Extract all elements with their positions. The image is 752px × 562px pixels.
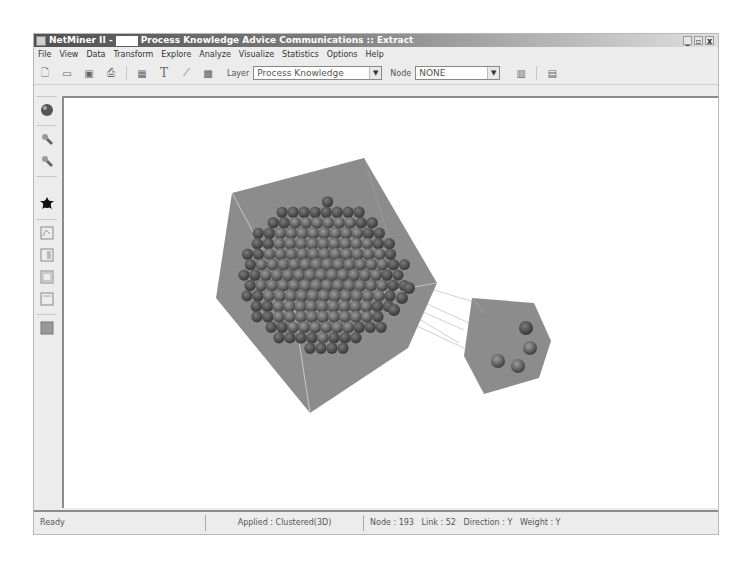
- left-toolbar: [34, 86, 61, 514]
- menu-analyze[interactable]: Analyze: [195, 50, 235, 59]
- small-cluster-cube: [464, 298, 551, 394]
- layer-value: Process Knowledge: [254, 68, 369, 78]
- layer-label: Layer: [227, 69, 249, 78]
- link-icon[interactable]: ⟋: [179, 66, 193, 80]
- spacer: [34, 177, 61, 191]
- grid-icon[interactable]: ▦: [135, 66, 149, 80]
- open-folder-icon[interactable]: ▭: [60, 66, 74, 80]
- minimize-button[interactable]: _: [683, 36, 692, 45]
- panel-icon[interactable]: ▤: [545, 66, 559, 80]
- node-label: Node: [390, 69, 411, 78]
- toolbar-separator: [37, 219, 57, 220]
- toolbar-separator: [37, 314, 57, 315]
- menu-statistics[interactable]: Statistics: [278, 50, 323, 59]
- node-star-icon[interactable]: [38, 195, 56, 213]
- status-text: Ready: [34, 515, 206, 531]
- frame-1-icon[interactable]: [38, 224, 56, 242]
- main-toolbar: 🗋 ▭ ▣ ⎙ ▦ T ⟋ ▩ Layer Process Knowledge …: [34, 62, 718, 85]
- cluster-visualization: [64, 98, 720, 508]
- print-icon[interactable]: ⎙: [104, 66, 118, 80]
- applied-layout: Applied : Clustered(3D): [206, 515, 364, 531]
- menu-file[interactable]: File: [34, 50, 55, 59]
- frame-2-icon[interactable]: [38, 246, 56, 264]
- save-icon[interactable]: ▣: [82, 66, 96, 80]
- toolbar-separator: [37, 125, 57, 126]
- chevron-down-icon[interactable]: ▼: [369, 67, 381, 79]
- columns-icon[interactable]: ▥: [514, 66, 528, 80]
- toolbar-separator: [37, 96, 57, 97]
- image-icon[interactable]: ▩: [201, 66, 215, 80]
- status-bar: Ready Applied : Clustered(3D) Node : 193…: [34, 510, 718, 534]
- new-file-icon[interactable]: 🗋: [38, 66, 52, 80]
- fill-icon[interactable]: [38, 319, 56, 337]
- window-controls: _ ▫ x: [683, 34, 714, 47]
- layer-dropdown[interactable]: Process Knowledge ▼: [253, 66, 382, 80]
- chevron-down-icon[interactable]: ▼: [487, 67, 499, 79]
- menu-data[interactable]: Data: [82, 50, 109, 59]
- toolbar-separator: [126, 66, 127, 80]
- title-prefix: NetMiner II -: [49, 34, 113, 47]
- node-dropdown[interactable]: NONE ▼: [415, 66, 500, 80]
- menu-explore[interactable]: Explore: [157, 50, 195, 59]
- frame-4-icon[interactable]: [38, 290, 56, 308]
- toolbar-separator: [536, 66, 537, 80]
- frame-3-icon[interactable]: [38, 268, 56, 286]
- app-icon: [36, 36, 46, 46]
- network-stats: Node : 193 Link : 52 Direction : Y Weigh…: [364, 515, 567, 531]
- restore-button[interactable]: ▫: [694, 36, 703, 45]
- text-icon[interactable]: T: [157, 66, 171, 80]
- node-value: NONE: [416, 68, 487, 78]
- redacted-title-block: [116, 36, 138, 46]
- menu-view[interactable]: View: [55, 50, 82, 59]
- menu-bar: File View Data Transform Explore Analyze…: [34, 47, 718, 61]
- menu-visualize[interactable]: Visualize: [235, 50, 278, 59]
- window-title: Process Knowledge Advice Communications …: [141, 34, 414, 47]
- zoom-out-icon[interactable]: [38, 152, 56, 170]
- menu-options[interactable]: Options: [323, 50, 362, 59]
- zoom-in-icon[interactable]: [38, 130, 56, 148]
- menu-help[interactable]: Help: [362, 50, 388, 59]
- close-button[interactable]: x: [705, 36, 714, 45]
- menu-transform[interactable]: Transform: [109, 50, 157, 59]
- network-3d-canvas[interactable]: [62, 96, 718, 508]
- title-bar: NetMiner II - Process Knowledge Advice C…: [34, 34, 718, 47]
- sphere-icon[interactable]: [38, 101, 56, 119]
- app-window: NetMiner II - Process Knowledge Advice C…: [33, 33, 719, 535]
